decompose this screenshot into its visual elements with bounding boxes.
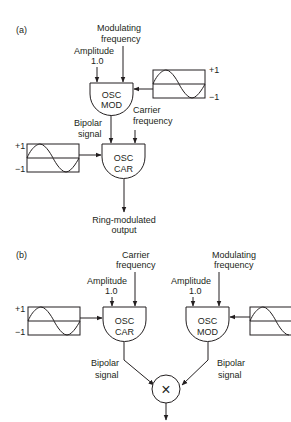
bipolar-left-arrow [124, 342, 154, 385]
bipolar-signal-label-2: signal [78, 129, 102, 139]
ring-modulation-diagram: (a) Modulating frequency Amplitude 1.0 O… [0, 0, 291, 422]
bipolar-right-label-2: signal [218, 370, 242, 380]
carrier-frequency-label-2: frequency [133, 116, 173, 126]
sine-waveform-table: +1 −1 [153, 65, 219, 102]
amplitude-mod-label: Amplitude [171, 276, 211, 286]
wave-plus-label-b: +1 [15, 304, 25, 314]
panel-a-label: (a) [16, 25, 27, 35]
amplitude-value: 1.0 [91, 56, 104, 66]
osc-mod-label-1: OSC [102, 90, 122, 100]
wave2-plus-label: +1 [15, 141, 25, 151]
multiply-icon: × [161, 381, 170, 398]
panel-a: (a) Modulating frequency Amplitude 1.0 O… [15, 23, 219, 235]
carrier-frequency-label-2: frequency [116, 260, 156, 270]
sine-waveform-table-b-right [250, 307, 291, 335]
bipolar-right-label-1: Bipolar [217, 358, 245, 368]
bipolar-left-label-1: Bipolar [91, 358, 119, 368]
bipolar-left-label-2: signal [95, 370, 119, 380]
osc-mod-label-2: MOD [101, 100, 122, 110]
wave-minus-label-b: −1 [15, 327, 25, 337]
modulating-frequency-label-1: Modulating [212, 250, 256, 260]
modulating-frequency-label-2: frequency [101, 34, 141, 44]
output-label-2: output [111, 225, 137, 235]
carrier-frequency-label-1: Carrier [122, 250, 150, 260]
wave-minus-label: −1 [209, 92, 219, 102]
bipolar-signal-label-1: Bipolar [74, 118, 102, 128]
amplitude-mod-value: 1.0 [189, 286, 202, 296]
osc-car-label-2-b: CAR [115, 327, 135, 337]
wave2-minus-label: −1 [15, 164, 25, 174]
panel-b: (b) Carrier frequency Modulating frequen… [15, 250, 291, 420]
modulating-frequency-label-2: frequency [214, 260, 254, 270]
osc-car-label-2: CAR [114, 164, 134, 174]
amplitude-car-label: Amplitude [87, 276, 127, 286]
amplitude-label: Amplitude [74, 46, 114, 56]
carrier-frequency-label-1: Carrier [133, 105, 161, 115]
bipolar-right-arrow [182, 342, 208, 385]
sine-waveform-table-2: +1 −1 [15, 141, 79, 174]
panel-b-label: (b) [16, 250, 27, 260]
amplitude-car-value: 1.0 [105, 286, 118, 296]
osc-mod-label-2-b: MOD [197, 327, 218, 337]
osc-car-label-1: OSC [114, 153, 134, 163]
osc-mod-label-1-b: OSC [198, 316, 218, 326]
osc-car-label-1-b: OSC [115, 316, 135, 326]
wave-plus-label: +1 [209, 65, 219, 75]
modulating-frequency-label-1: Modulating [97, 23, 141, 33]
sine-waveform-table-b: +1 −1 [15, 304, 80, 337]
output-label-1: Ring-modulated [92, 215, 156, 225]
